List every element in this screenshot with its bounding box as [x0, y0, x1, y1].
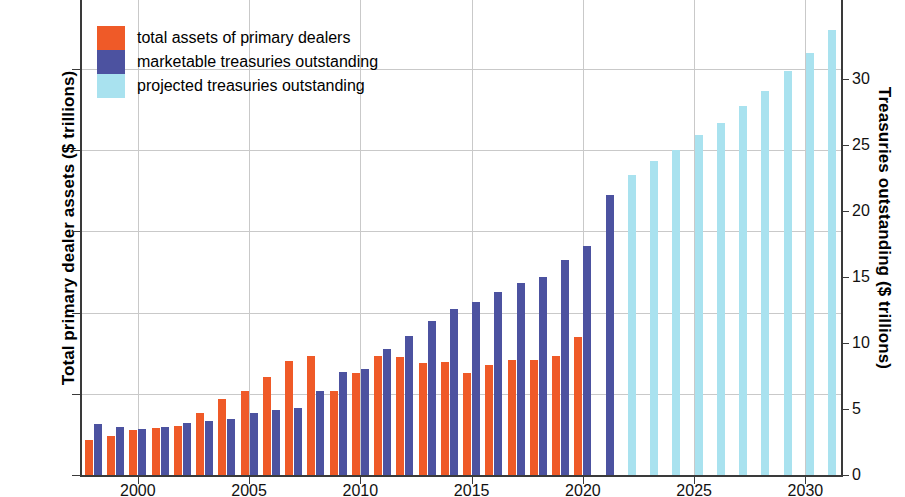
legend-item-treasuries: marketable treasuries outstanding [97, 50, 378, 74]
y-axis-left-title: Total primary dealer assets ($ trillions… [59, 63, 79, 393]
bar-projected-treasuries [806, 53, 814, 475]
legend-swatch-icon-projected [97, 74, 125, 98]
y-axis-left-tick [72, 475, 80, 476]
legend-swatch-icon-treasuries [97, 50, 125, 74]
bar-projected-treasuries [717, 123, 725, 475]
bar-marketable-treasuries [161, 427, 169, 475]
bar-projected-treasuries [761, 91, 769, 475]
bar-marketable-treasuries [583, 246, 591, 475]
gridline-horizontal [80, 394, 841, 395]
bar-marketable-treasuries [116, 427, 124, 475]
bar-marketable-treasuries [361, 369, 369, 475]
y-axis-right-tick-label: 0 [852, 466, 892, 484]
bar-marketable-treasuries [494, 292, 502, 475]
legend: total assets of primary dealers marketab… [97, 26, 378, 98]
gridline-horizontal [80, 313, 841, 314]
y-axis-right-tick-label: 15 [852, 268, 892, 286]
bar-total-assets [552, 356, 560, 475]
bar-total-assets [352, 373, 360, 475]
legend-label-assets: total assets of primary dealers [137, 29, 350, 47]
bar-marketable-treasuries [294, 408, 302, 475]
y-axis-right-tick [841, 277, 849, 278]
bar-total-assets [374, 356, 382, 475]
bar-marketable-treasuries [205, 421, 213, 475]
y-axis-left-tick [72, 150, 80, 151]
x-axis-tick-label: 2020 [553, 482, 613, 497]
bar-total-assets [218, 399, 226, 475]
y-axis-right-tick-label: 30 [852, 70, 892, 88]
y-axis-right-tick [841, 343, 849, 344]
legend-item-projected: projected treasuries outstanding [97, 74, 378, 98]
y-axis-right-tick-label: 10 [852, 334, 892, 352]
bar-total-assets [307, 356, 315, 475]
legend-label-treasuries: marketable treasuries outstanding [137, 53, 378, 71]
y-axis-right-line [841, 0, 843, 477]
y-axis-left-tick [72, 394, 80, 395]
bar-total-assets [485, 365, 493, 475]
y-axis-left-tick [72, 313, 80, 314]
bar-projected-treasuries [695, 135, 703, 475]
bar-marketable-treasuries [272, 410, 280, 475]
gridline-horizontal [80, 231, 841, 232]
bar-total-assets [396, 357, 404, 475]
legend-swatch-icon-assets [97, 26, 125, 50]
y-axis-right-tick-label: 20 [852, 202, 892, 220]
bar-marketable-treasuries [227, 419, 235, 475]
bar-marketable-treasuries [472, 302, 480, 475]
y-axis-left-line [80, 0, 82, 477]
bar-total-assets [107, 436, 115, 475]
bar-marketable-treasuries [428, 321, 436, 475]
y-axis-right-tick-label: 5 [852, 400, 892, 418]
x-axis-tick-label: 2000 [108, 482, 168, 497]
bar-marketable-treasuries [316, 391, 324, 475]
bar-marketable-treasuries [339, 372, 347, 475]
y-axis-right-tick [841, 409, 849, 410]
bar-total-assets [508, 360, 516, 475]
bar-marketable-treasuries [517, 283, 525, 475]
y-axis-right-tick [841, 145, 849, 146]
x-axis-tick-label: 2005 [219, 482, 279, 497]
x-axis-tick-label: 2025 [664, 482, 724, 497]
chart-figure: Total primary dealer assets ($ trillions… [0, 0, 905, 497]
bar-marketable-treasuries [383, 349, 391, 475]
bar-total-assets [330, 391, 338, 475]
bar-projected-treasuries [650, 161, 658, 475]
bar-total-assets [152, 428, 160, 475]
bar-marketable-treasuries [450, 309, 458, 475]
bar-total-assets [441, 362, 449, 475]
bar-total-assets [530, 360, 538, 475]
bar-total-assets [463, 373, 471, 475]
bar-projected-treasuries [828, 30, 836, 475]
y-axis-right-tick [841, 79, 849, 80]
bar-projected-treasuries [672, 150, 680, 475]
y-axis-left-tick [72, 69, 80, 70]
x-axis-tick-label: 2030 [775, 482, 835, 497]
x-axis-tick-label: 2015 [442, 482, 502, 497]
bar-marketable-treasuries [183, 423, 191, 475]
bar-total-assets [574, 337, 582, 475]
bar-marketable-treasuries [94, 424, 102, 475]
y-axis-right-tick [841, 475, 849, 476]
bar-total-assets [174, 426, 182, 475]
legend-label-projected: projected treasuries outstanding [137, 77, 365, 95]
bar-marketable-treasuries [561, 260, 569, 475]
y-axis-right-tick-label: 25 [852, 136, 892, 154]
bar-marketable-treasuries [606, 195, 614, 475]
x-axis-line [80, 475, 843, 477]
bar-total-assets [285, 361, 293, 475]
bar-marketable-treasuries [250, 413, 258, 475]
bar-marketable-treasuries [405, 336, 413, 475]
bar-marketable-treasuries [539, 277, 547, 475]
bar-projected-treasuries [739, 106, 747, 475]
bar-total-assets [85, 440, 93, 475]
bar-total-assets [196, 413, 204, 475]
bar-total-assets [241, 391, 249, 475]
bar-total-assets [419, 363, 427, 475]
x-axis-tick-label: 2010 [330, 482, 390, 497]
bar-projected-treasuries [784, 71, 792, 475]
y-axis-right-tick [841, 211, 849, 212]
legend-item-assets: total assets of primary dealers [97, 26, 378, 50]
bar-projected-treasuries [628, 175, 636, 475]
bar-marketable-treasuries [138, 429, 146, 475]
bar-total-assets [263, 377, 271, 475]
